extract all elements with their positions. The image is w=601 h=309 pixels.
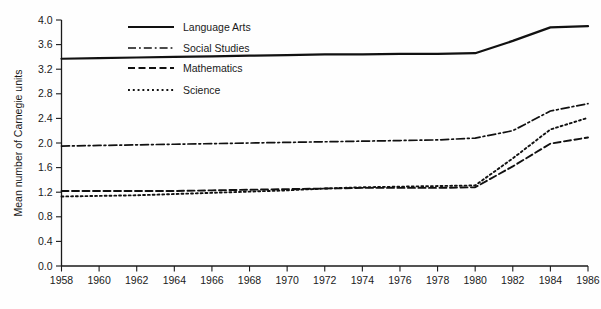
y-axis: 0.00.40.81.21.62.02.42.83.23.64.0 (38, 14, 62, 272)
y-tick-label: 0.8 (38, 210, 53, 222)
data-series-group (62, 26, 589, 196)
y-tick-label: 4.0 (38, 14, 53, 26)
legend-label-science: Science (183, 84, 221, 96)
y-tick-label: 2.8 (38, 87, 53, 99)
y-tick-label: 2.4 (38, 112, 53, 124)
y-axis-title: Mean number of Carnegie units (12, 69, 24, 216)
x-tick-label: 1982 (501, 274, 525, 286)
chart-figure: 0.00.40.81.21.62.02.42.83.23.64.0 195819… (0, 0, 601, 309)
x-tick-label: 1978 (426, 274, 450, 286)
series-line-social-studies (62, 104, 589, 146)
x-tick-label: 1962 (125, 274, 149, 286)
x-axis: 1958196019621964196619681970197219741976… (50, 266, 600, 286)
x-tick-label: 1972 (313, 274, 337, 286)
line-chart: 0.00.40.81.21.62.02.42.83.23.64.0 195819… (0, 0, 601, 309)
x-tick-label: 1964 (163, 274, 187, 286)
legend-label-language-arts: Language Arts (183, 21, 251, 33)
y-tick-label: 1.2 (38, 186, 53, 198)
y-tick-label: 1.6 (38, 161, 53, 173)
x-tick-label: 1980 (463, 274, 487, 286)
legend-label-social-studies: Social Studies (183, 42, 250, 54)
x-tick-label: 1968 (238, 274, 262, 286)
series-line-language-arts (62, 26, 589, 59)
x-tick-label: 1984 (539, 274, 563, 286)
x-tick-label: 1966 (200, 274, 224, 286)
y-axis-title-text: Mean number of Carnegie units (12, 69, 24, 216)
x-tick-label: 1976 (388, 274, 412, 286)
series-line-science (62, 118, 589, 197)
x-tick-label: 1970 (275, 274, 299, 286)
y-tick-label: 2.0 (38, 137, 53, 149)
y-tick-label: 3.6 (38, 38, 53, 50)
y-tick-label: 3.2 (38, 63, 53, 75)
legend-label-mathematics: Mathematics (183, 62, 243, 74)
y-tick-label: 0.4 (38, 235, 53, 247)
x-tick-label: 1960 (87, 274, 111, 286)
x-tick-label: 1986 (576, 274, 600, 286)
y-tick-label: 0.0 (38, 260, 53, 272)
x-tick-label: 1974 (351, 274, 375, 286)
x-tick-label: 1958 (50, 274, 74, 286)
